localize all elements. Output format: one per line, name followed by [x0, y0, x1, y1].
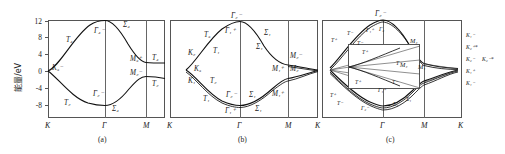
label-c-inset-Tplus-up: T⁺ [362, 50, 368, 56]
label-c-Tminus-low: T⁻ [337, 101, 343, 107]
label-c-M4-upper: M₄ [410, 38, 418, 44]
label-c-inset-Tplus-low: T⁺ [355, 80, 361, 86]
panel-c-xtick-M: M [421, 121, 428, 130]
panel-c-caption: (c) [386, 135, 394, 144]
band-structure-figure: 能量/eV 12 8 4 0 -4 -8 K₃⁻ T₄ Γ₄⁻ Σ₄ M₃⁺ T… [0, 0, 505, 154]
label-c-Gamma2-top: Γ₂⁻ [375, 11, 386, 18]
label-c-Sigma1: Σ₁ [406, 97, 411, 103]
label-c-Tminus-mid: T⁻ [357, 41, 363, 47]
label-c-Gamma1-top: Γ₁⁺ [366, 28, 374, 34]
label-c-M1: M₁ [418, 64, 426, 70]
label-c-K2-minus: K₂⁻ [466, 57, 475, 63]
label-c-K1-minus-bot: K₁⁻ [466, 81, 475, 87]
label-c-Tplus-up: T⁺ [331, 38, 337, 44]
label-c-K2-minus-star: K₂⁻* [482, 57, 493, 63]
label-c-Sigma4: Σ₄ [393, 102, 398, 108]
label-c-Tplus-low: T⁺ [330, 93, 336, 99]
label-c-Gamma2-bot: Γ₂⁻ [361, 106, 369, 112]
panel-c-inset-curves [0, 0, 505, 154]
label-c-K1-minus-top: K₁⁻ [466, 33, 475, 39]
label-c-Gamma1-bot: Γ₁⁺ [378, 88, 386, 94]
label-c-K2-plus-star: K₂⁺* [466, 45, 477, 51]
label-c-inset-Tminus-right: T⁻ [396, 61, 402, 67]
panel-c-xtick-Gamma: Γ [380, 121, 384, 130]
label-c-K1-plus: K₁⁺ [466, 69, 475, 75]
label-c-Tminus-up: T⁻ [347, 31, 353, 37]
panel-c-xtick-K: K [458, 121, 463, 130]
label-c-inset-Tminus-low: T⁻ [392, 80, 398, 86]
label-c-Gamma2b: Γ₂ [379, 27, 384, 33]
